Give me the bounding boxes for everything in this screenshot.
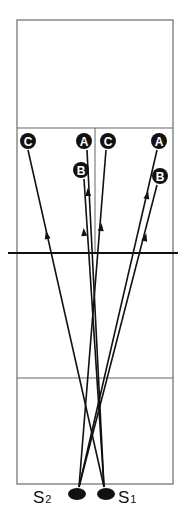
server-marker-S2 [68, 488, 86, 500]
target-label: C [104, 135, 113, 149]
arrow-head-icon [85, 188, 91, 196]
target-label: B [77, 164, 86, 178]
target-label: C [24, 135, 33, 149]
target-label: A [80, 135, 89, 149]
serve-path [79, 150, 157, 487]
arrow-head-icon [143, 191, 149, 199]
arrow-head-icon [81, 228, 87, 236]
arrow-head-icon [45, 231, 51, 239]
target-label: B [156, 170, 165, 184]
target-label: A [155, 135, 164, 149]
server-label-S2: S2 [33, 488, 51, 507]
server-label-S1: S1 [118, 488, 136, 507]
volleyball-court-diagram: CABCABS2S1 [0, 0, 189, 527]
server-marker-S1 [97, 488, 115, 500]
